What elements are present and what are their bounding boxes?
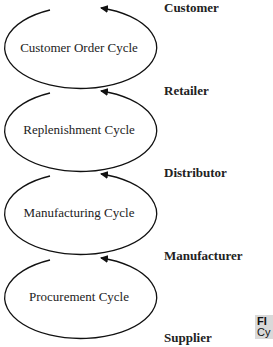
cycle-label-procurement: Procurement Cycle: [4, 289, 154, 305]
stage-label-retailer: Retailer: [164, 83, 209, 99]
figure-caption-box: FI Cy: [255, 315, 273, 339]
stage-label-supplier: Supplier: [164, 330, 212, 346]
stage-label-customer: Customer: [164, 0, 219, 16]
cycle-label-replenishment: Replenishment Cycle: [4, 122, 154, 138]
cycle-label-manufacturing: Manufacturing Cycle: [4, 205, 154, 221]
stage-label-distributor: Distributor: [164, 165, 227, 181]
cycle-label-customer-order: Customer Order Cycle: [4, 40, 154, 56]
stage-label-manufacturer: Manufacturer: [164, 248, 242, 264]
figure-caption-text: Cy: [257, 326, 270, 338]
